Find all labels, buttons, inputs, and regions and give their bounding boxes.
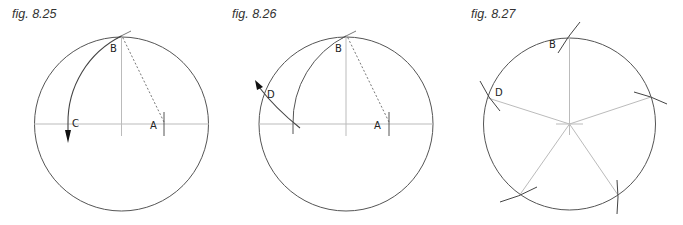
label-b: B bbox=[110, 43, 117, 54]
spoke-d bbox=[488, 98, 570, 124]
label-c: C bbox=[72, 118, 79, 129]
spoke-lower-right bbox=[570, 124, 619, 195]
figure-8-25: B C A bbox=[34, 31, 209, 211]
label-d: D bbox=[267, 89, 275, 100]
diagram-canvas: B C A B D A B D bbox=[0, 0, 683, 225]
label-a: A bbox=[150, 120, 157, 131]
dashed-line-ab bbox=[122, 36, 164, 122]
label-b: B bbox=[549, 39, 556, 50]
spoke-lower-left bbox=[519, 124, 570, 196]
label-b: B bbox=[335, 43, 342, 54]
arrow-down-icon bbox=[65, 130, 71, 143]
tick-arc-lower-right bbox=[617, 180, 618, 214]
arrow-up-left-icon bbox=[255, 80, 263, 90]
spoke-right bbox=[570, 97, 652, 124]
tick-arc-lower-left bbox=[500, 187, 537, 202]
label-d: D bbox=[495, 87, 503, 98]
figure-8-27: B D bbox=[480, 22, 667, 214]
dashed-line-ab bbox=[347, 36, 389, 122]
figure-8-26: B D A bbox=[255, 31, 433, 211]
label-a: A bbox=[374, 120, 381, 131]
